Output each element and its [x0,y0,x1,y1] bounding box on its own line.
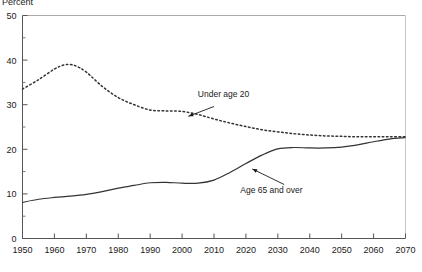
x-tick-label: 2030 [268,245,288,255]
x-tick-label: 2010 [204,245,224,255]
series-line [23,64,406,136]
x-tick-label: 1960 [44,245,64,255]
annotation-arrowhead [252,169,257,173]
y-tick-label: 10 [6,189,16,199]
y-tick-label: 50 [6,11,16,21]
annotation-label: Under age 20 [198,89,250,99]
x-tick-label: 2060 [364,245,384,255]
y-tick-label: 40 [6,56,16,66]
line-chart-plot: 1950196019701980199020002010202020302040… [0,0,422,272]
x-tick-label: 2020 [236,245,256,255]
x-tick-label: 2000 [172,245,192,255]
x-tick-label: 1980 [108,245,128,255]
axes [23,16,406,239]
y-tick-label: 0 [11,234,16,244]
series-line [23,138,406,203]
annotation-label: Age 65 and over [240,185,303,195]
x-tick-label: 2050 [332,245,352,255]
x-tick-label: 2070 [395,245,415,255]
y-tick-label: 30 [6,100,16,110]
data-series [23,64,406,202]
x-tick-label: 1990 [140,245,160,255]
chart-container: Percent 19501960197019801990200020102020… [0,0,422,272]
x-axis-ticks: 1950196019701980199020002010202020302040… [12,234,415,255]
x-tick-label: 1970 [76,245,96,255]
y-axis-ticks: 01020304050 [6,11,27,244]
x-tick-label: 2040 [300,245,320,255]
series-annotations: Under age 20Age 65 and over [188,89,302,195]
y-tick-label: 20 [6,145,16,155]
annotation-arrow [252,169,284,185]
x-tick-label: 1950 [12,245,32,255]
